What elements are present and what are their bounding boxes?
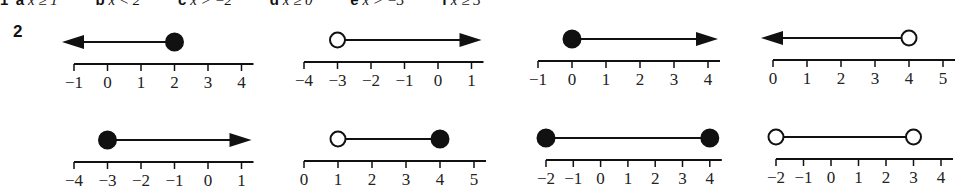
tick-label: −1 [529,70,547,89]
tick-label: 0 [434,71,443,90]
tick-label: 0 [204,171,213,190]
tick-label: 1 [334,170,343,189]
tick-label: 4 [706,169,715,188]
tick-label: 1 [237,171,246,190]
answer-1e: e x > −3 [350,0,404,8]
tick-label: 3 [204,73,213,92]
arrow-left-icon [761,31,783,45]
tick-label: 0 [103,73,112,92]
tick-label: 3 [871,69,880,88]
tick-label: 0 [568,70,577,89]
tick-label: 3 [670,70,679,89]
tick-label: 5 [470,170,479,189]
closed-circle-icon [99,132,116,149]
tick-label: 3 [909,168,918,187]
tick-label: −1 [65,73,83,92]
answer-1c: c x > −2 [178,0,232,8]
number-line-r1c1: −101234 [59,22,269,102]
tick-label: 0 [827,168,836,187]
tick-label: 3 [678,169,687,188]
number-line-r2c4: −2−101234 [761,117,967,193]
arrow-left-icon [62,35,84,49]
open-circle-icon [330,33,345,48]
tick-label: 1 [803,69,812,88]
tick-label: 1 [624,169,633,188]
answer-1f: f x ≥ 3 [442,0,481,8]
closed-circle-icon [166,34,183,51]
tick-label: −3 [328,71,346,90]
closed-circle-icon [432,131,449,148]
tick-label: −1 [564,169,582,188]
number-line-r1c4: 012345 [758,18,967,98]
tick-label: −1 [395,71,413,90]
tick-label: 2 [170,73,179,92]
arrow-right-icon [230,133,252,147]
tick-label: −2 [537,169,555,188]
tick-label: 1 [602,70,611,89]
tick-label: −4 [295,71,314,90]
closed-circle-icon [538,130,555,147]
tick-label: 4 [704,70,713,89]
tick-label: 4 [905,69,914,88]
tick-label: −4 [65,171,84,190]
tick-label: 2 [368,170,377,189]
question-2-number: 2 [13,22,22,42]
tick-label: −1 [794,168,812,187]
tick-label: 1 [137,73,146,92]
tick-label: 3 [402,170,411,189]
tick-label: 0 [769,69,778,88]
number-line-r2c1: −4−3−2−101 [59,120,269,193]
arrow-right-icon [460,33,482,47]
closed-circle-icon [701,130,718,147]
tick-label: −2 [362,71,380,90]
tick-label: 4 [436,170,445,189]
number-line-r2c3: −2−101234 [531,118,737,193]
tick-label: 1 [467,71,476,90]
tick-label: 2 [837,69,846,88]
open-circle-icon [906,130,921,145]
number-line-r1c2: −4−3−2−101 [289,20,499,100]
tick-label: 4 [937,168,946,187]
question-1-answers: 1 a x ≥ 1 b x < 2 c x > −2 d x ≥ 0 e x >… [0,0,515,7]
tick-label: 2 [651,169,660,188]
arrow-right-icon [696,32,718,46]
tick-label: −3 [98,171,116,190]
open-circle-icon [902,31,917,46]
tick-label: −1 [165,171,183,190]
closed-circle-icon [564,31,581,48]
tick-label: −2 [132,171,150,190]
answer-1d: d x ≥ 0 [270,0,313,8]
number-line-r1c3: −101234 [523,19,735,99]
answer-1b: b x < 2 [96,0,141,8]
question-1-number: 1 [0,0,8,8]
tick-label: 0 [596,169,605,188]
tick-label: −2 [767,168,785,187]
answer-1a: a x ≥ 1 [16,0,58,8]
tick-label: 4 [237,73,246,92]
tick-label: 2 [882,168,891,187]
number-line-r2c2: 012345 [289,119,501,193]
open-circle-icon [331,132,346,147]
tick-label: 1 [854,168,863,187]
open-circle-icon [769,130,784,145]
tick-label: 0 [300,170,309,189]
tick-label: 2 [636,70,645,89]
tick-label: 5 [939,69,948,88]
